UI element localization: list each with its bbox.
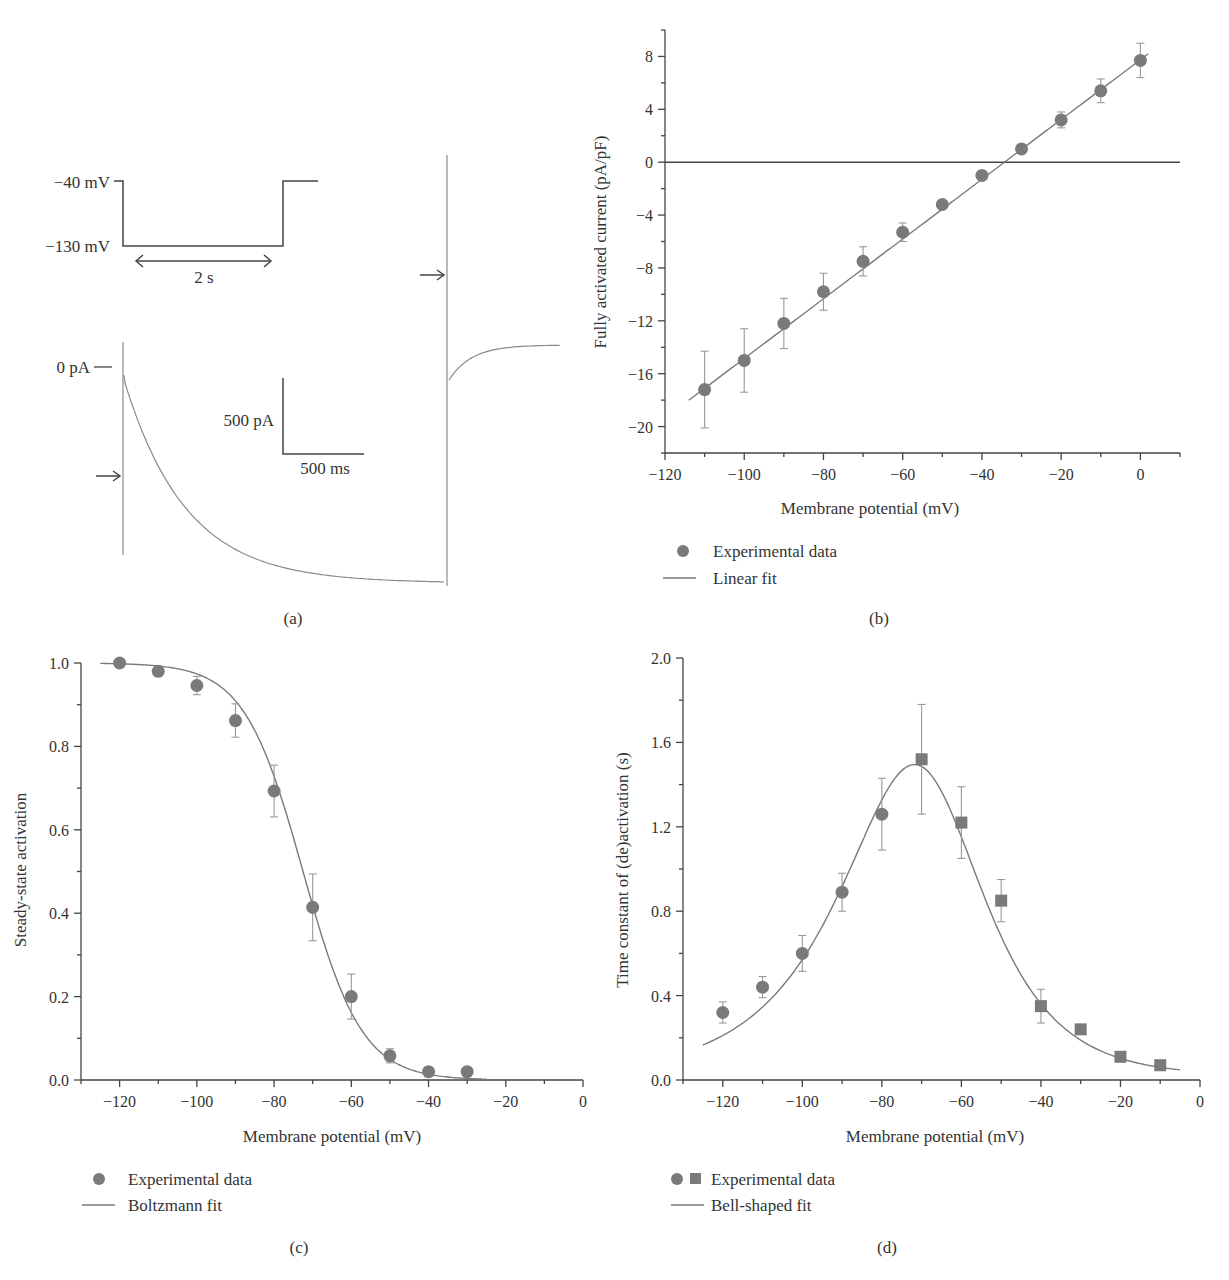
y-tick-label: 8 — [645, 48, 653, 65]
data-point-circle — [383, 1049, 396, 1062]
x-tick-label: −60 — [890, 466, 915, 483]
panel-label-d: (d) — [877, 1238, 897, 1257]
legend-item-fit: Bell-shaped fit — [711, 1196, 812, 1215]
x-tick-label: −60 — [339, 1093, 364, 1110]
x-tick-label: −20 — [1108, 1093, 1133, 1110]
protocol-trace — [114, 181, 318, 246]
voltage-protocol — [114, 181, 318, 267]
axes — [74, 663, 583, 1087]
legend-circle-icon — [671, 1173, 683, 1185]
data-point-circle — [936, 198, 949, 211]
y-tick-label: 1.0 — [49, 655, 69, 672]
x-tick-label: −120 — [648, 466, 681, 483]
data-point-square — [916, 753, 928, 765]
data-point-circle — [306, 901, 319, 914]
current-trace — [123, 155, 560, 586]
x-tick-label: 0 — [579, 1093, 587, 1110]
y-axis-label: Steady-state activation — [11, 792, 30, 947]
duration-label: 2 s — [194, 268, 213, 287]
figure-canvas: −40 mV −130 mV 2 s 0 pA 500 pA 500 ms (a… — [0, 0, 1229, 1280]
v-step-label: −130 mV — [45, 237, 111, 256]
data-point-square — [1154, 1059, 1166, 1071]
data-point-circle — [896, 226, 909, 239]
data-point-square — [1114, 1051, 1126, 1063]
y-tick-label: 0.0 — [651, 1072, 671, 1089]
y-tick-label: 0.4 — [49, 905, 69, 922]
y-tick-label: 1.2 — [651, 819, 671, 836]
legend-circle-icon — [93, 1173, 105, 1185]
panel-a: −40 mV −130 mV 2 s 0 pA 500 pA 500 ms (a… — [45, 155, 560, 628]
panel-label-c: (c) — [290, 1238, 309, 1257]
panel-label-b: (b) — [869, 609, 889, 628]
activation-current-trace — [124, 375, 444, 582]
data-point-circle — [152, 665, 165, 678]
data-point-circle — [698, 383, 711, 396]
legend-circle-icon — [677, 545, 689, 557]
data-point-circle — [345, 990, 358, 1003]
x-tick-label: −40 — [969, 466, 994, 483]
data-point-square — [1075, 1023, 1087, 1035]
data-point-circle — [1134, 54, 1147, 67]
x-tick-label: −80 — [262, 1093, 287, 1110]
data-point-circle — [268, 785, 281, 798]
y-tick-label: 0.8 — [651, 903, 671, 920]
data-point-square — [995, 895, 1007, 907]
data-point-circle — [738, 354, 751, 367]
legend-item-fit: Boltzmann fit — [128, 1196, 222, 1215]
data-point-circle — [229, 714, 242, 727]
data-point-circle — [1015, 142, 1028, 155]
x-tick-label: −40 — [416, 1093, 441, 1110]
legend-item-data: Experimental data — [128, 1170, 253, 1189]
data-point-circle — [1094, 84, 1107, 97]
panel-d-time-constant-chart: Membrane potential (mV) Time constant of… — [613, 650, 1204, 1257]
data-point-circle — [796, 947, 809, 960]
y-axis-label: Fully activated current (pA/pF) — [591, 136, 610, 349]
y-tick-label: 1.6 — [651, 734, 671, 751]
x-tick-label: −80 — [811, 466, 836, 483]
y-tick-label: 0.6 — [49, 822, 69, 839]
x-tick-label: −100 — [728, 466, 761, 483]
y-tick-label: 0.8 — [49, 738, 69, 755]
y-tick-label: −4 — [636, 207, 653, 224]
y-tick-label: 2.0 — [651, 650, 671, 667]
x-tick-label: −60 — [949, 1093, 974, 1110]
data-point-circle — [461, 1065, 474, 1078]
x-tick-label: −20 — [1049, 466, 1074, 483]
y-tick-label: −20 — [628, 419, 653, 436]
data-point-circle — [817, 285, 830, 298]
legend-item-data: Experimental data — [713, 542, 838, 561]
data-point-circle — [857, 255, 870, 268]
y-tick-label: −12 — [628, 313, 653, 330]
x-tick-label: −100 — [786, 1093, 819, 1110]
scale-y-label: 500 pA — [223, 411, 274, 430]
x-tick-label: −120 — [103, 1093, 136, 1110]
data-point-circle — [836, 886, 849, 899]
legend-item-data: Experimental data — [711, 1170, 836, 1189]
data-point-circle — [756, 981, 769, 994]
data-point-circle — [975, 169, 988, 182]
legend-square-icon — [690, 1173, 701, 1184]
data-point-circle — [716, 1006, 729, 1019]
x-tick-label: 0 — [1196, 1093, 1204, 1110]
tail-current-trace — [449, 345, 560, 380]
scale-x-label: 500 ms — [300, 459, 350, 478]
y-tick-label: −16 — [628, 366, 653, 383]
fit-curve — [100, 663, 486, 1079]
x-tick-label: −20 — [493, 1093, 518, 1110]
data-point-square — [955, 817, 967, 829]
x-tick-label: −120 — [706, 1093, 739, 1110]
y-tick-label: 4 — [645, 101, 653, 118]
data-point-circle — [1055, 113, 1068, 126]
x-tick-label: −80 — [869, 1093, 894, 1110]
zero-current-label: 0 pA — [56, 358, 90, 377]
fit-curve — [689, 54, 1149, 401]
y-tick-label: 0.0 — [49, 1072, 69, 1089]
fit-curve — [703, 765, 1180, 1070]
panel-b-iv-chart: Membrane potential (mV) Fully activated … — [591, 30, 1180, 628]
x-axis-label: Membrane potential (mV) — [846, 1127, 1024, 1146]
x-tick-label: −40 — [1028, 1093, 1053, 1110]
x-tick-label: −100 — [180, 1093, 213, 1110]
legend-item-fit: Linear fit — [713, 569, 777, 588]
x-axis-label: Membrane potential (mV) — [243, 1127, 421, 1146]
data-point-circle — [422, 1065, 435, 1078]
